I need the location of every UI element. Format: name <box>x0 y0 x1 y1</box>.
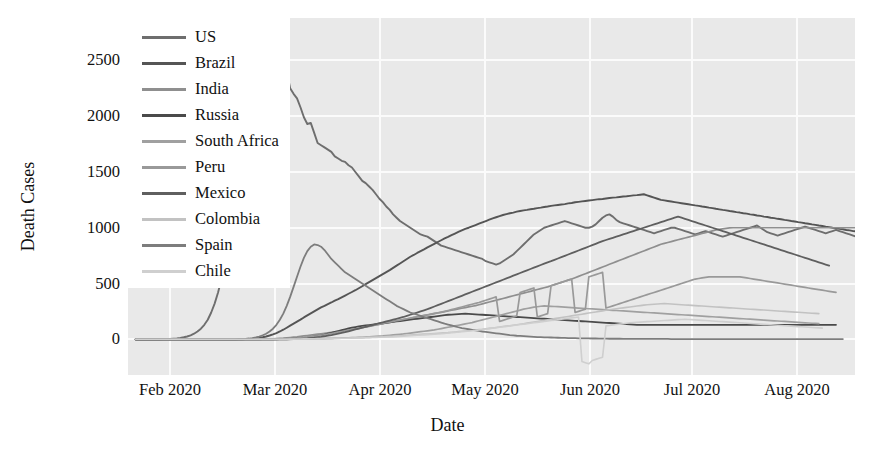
legend-swatch-icon <box>142 114 186 117</box>
x-axis-title: Date <box>0 415 895 436</box>
x-tick-label: Aug 2020 <box>764 381 830 399</box>
legend-swatch-icon <box>142 192 186 195</box>
legend-item-india[interactable]: India <box>128 76 290 102</box>
legend-item-peru[interactable]: Peru <box>128 154 290 180</box>
chart-figure: 05001000150020002500 Feb 2020Mar 2020Apr… <box>0 0 895 467</box>
legend-item-south-africa[interactable]: South Africa <box>128 128 290 154</box>
legend-swatch-icon <box>142 88 186 91</box>
legend-item-mexico[interactable]: Mexico <box>128 180 290 206</box>
legend-item-label: Brazil <box>195 55 235 72</box>
legend-item-label: South Africa <box>195 133 279 150</box>
legend-item-brazil[interactable]: Brazil <box>128 50 290 76</box>
chart-legend: USBrazilIndiaRussiaSouth AfricaPeruMexic… <box>128 18 290 288</box>
legend-item-colombia[interactable]: Colombia <box>128 206 290 232</box>
y-tick-label: 1500 <box>50 164 120 181</box>
legend-swatch-icon <box>142 218 186 221</box>
y-tick-label: 2000 <box>50 108 120 125</box>
legend-item-label: Colombia <box>195 211 260 228</box>
legend-swatch-icon <box>142 36 186 39</box>
x-tick-label: Apr 2020 <box>349 381 412 399</box>
legend-item-label: Mexico <box>195 185 245 202</box>
x-axis-ticks: Feb 2020Mar 2020Apr 2020May 2020Jun 2020… <box>128 381 855 405</box>
legend-item-label: India <box>195 81 229 98</box>
legend-item-us[interactable]: US <box>128 24 290 50</box>
x-tick-label: Mar 2020 <box>243 381 308 399</box>
legend-swatch-icon <box>142 140 186 143</box>
x-tick-label: Jun 2020 <box>560 381 620 399</box>
legend-item-russia[interactable]: Russia <box>128 102 290 128</box>
legend-item-chile[interactable]: Chile <box>128 258 290 284</box>
legend-item-label: Peru <box>195 159 225 176</box>
y-tick-label: 500 <box>50 276 120 293</box>
y-tick-label: 0 <box>50 331 120 348</box>
y-tick-label: 1000 <box>50 220 120 237</box>
y-axis-title: Death Cases <box>18 117 39 297</box>
legend-swatch-icon <box>142 244 186 247</box>
legend-item-label: US <box>195 29 216 46</box>
x-tick-label: Feb 2020 <box>139 381 201 399</box>
legend-item-label: Chile <box>195 263 231 280</box>
legend-swatch-icon <box>142 166 186 169</box>
legend-item-label: Russia <box>195 107 239 124</box>
legend-item-label: Spain <box>195 237 233 254</box>
legend-swatch-icon <box>142 62 186 65</box>
x-tick-label: May 2020 <box>451 381 518 399</box>
y-axis-ticks: 05001000150020002500 <box>46 0 120 467</box>
series-line-south-africa <box>136 306 819 339</box>
legend-item-spain[interactable]: Spain <box>128 232 290 258</box>
x-tick-label: Jul 2020 <box>664 381 720 399</box>
y-tick-label: 2500 <box>50 52 120 69</box>
legend-swatch-icon <box>142 270 186 273</box>
